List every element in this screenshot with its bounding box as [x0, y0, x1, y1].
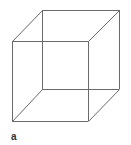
top-left-connector	[13, 11, 43, 42]
panel-label: a	[11, 132, 17, 142]
top-right-connector	[89, 11, 120, 42]
bottom-right-connector	[89, 90, 120, 122]
bottom-left-connector	[13, 90, 43, 122]
connecting-edges	[13, 11, 120, 122]
necker-cube-diagram	[0, 0, 131, 145]
